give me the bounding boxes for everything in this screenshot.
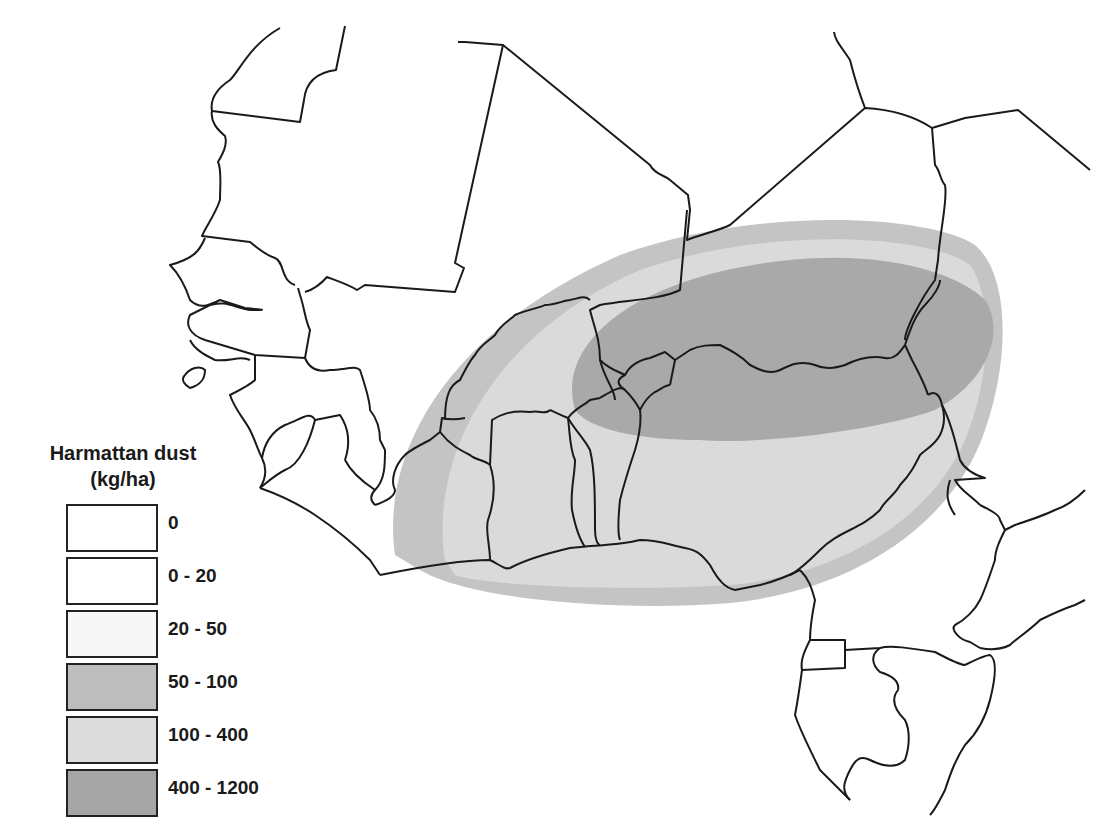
- legend-swatch: [66, 557, 158, 605]
- legend-title-line2: (kg/ha): [18, 466, 228, 492]
- legend-label: 0 - 20: [168, 565, 217, 587]
- legend-item: 20 - 50: [66, 610, 158, 658]
- legend-title-line1: Harmattan dust: [18, 440, 228, 466]
- legend-item: 50 - 100: [66, 663, 158, 711]
- legend-item: 0: [66, 504, 158, 552]
- map-canvas: [0, 0, 1102, 839]
- legend-label: 400 - 1200: [168, 777, 259, 799]
- legend-swatch: [66, 769, 158, 817]
- legend-swatch: [66, 663, 158, 711]
- legend-item: 0 - 20: [66, 557, 158, 605]
- dust-zones: [393, 220, 1003, 606]
- legend-item: 400 - 1200: [66, 769, 158, 817]
- legend-swatch: [66, 610, 158, 658]
- legend-label: 20 - 50: [168, 618, 227, 640]
- legend-label: 50 - 100: [168, 671, 238, 693]
- legend-item: 100 - 400: [66, 716, 158, 764]
- legend-label: 100 - 400: [168, 724, 248, 746]
- legend-swatch: [66, 716, 158, 764]
- legend-label: 0: [168, 512, 179, 534]
- legend-swatch: [66, 504, 158, 552]
- legend-title: Harmattan dust (kg/ha): [18, 440, 228, 492]
